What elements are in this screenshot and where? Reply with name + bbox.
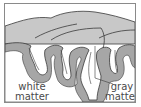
diagram-frame: white matter gray matter bbox=[4, 3, 136, 103]
sulcus-line-3 bbox=[89, 52, 91, 84]
cortex-surface-back bbox=[5, 11, 135, 44]
gray-matter-label-line2: matter bbox=[105, 92, 136, 102]
white-matter-label: white matter bbox=[15, 82, 49, 102]
white-matter-label-line2: matter bbox=[15, 92, 49, 102]
gray-matter-label: gray matter bbox=[105, 82, 136, 102]
